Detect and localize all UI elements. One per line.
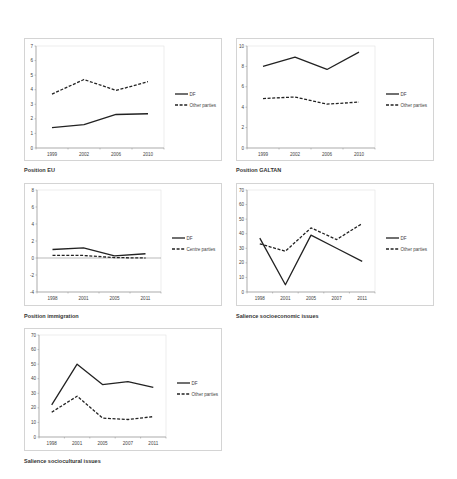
y-tick-label: 40 [239,231,245,236]
x-tick-label: 2011 [357,296,367,301]
series-line-other-parties [52,80,148,95]
x-tick-label: 1999 [47,152,58,157]
y-tick-label: 4 [30,87,33,92]
x-tick-label: 1998 [255,296,266,301]
series-line-centre-parties [53,255,146,258]
y-tick-label: 2 [241,125,244,130]
x-tick-label: 2007 [123,441,134,446]
x-tick-label: 2001 [78,296,89,301]
x-tick-label: 2010 [354,152,365,157]
chart-position-immigration: -4-2024681998200120052011DFCentre partie… [24,183,222,306]
chart-svg: 02468101999200220062010DFOther parties [237,39,435,162]
chart-svg: -4-2024681998200120052011DFCentre partie… [25,184,223,307]
series-line-other-parties [260,224,362,252]
x-tick-label: 2001 [72,441,83,446]
x-tick-label: 2011 [141,296,151,301]
caption-salience-sociocultural: Salience sociocultural issues [24,458,101,464]
y-tick-label: -4 [30,290,35,295]
y-tick-label: 20 [239,260,245,265]
x-tick-label: 2006 [322,152,333,157]
chart-salience-socioeconomic: 01020304050607019982001200520072011DFOth… [236,183,434,306]
legend-label: DF [187,236,193,241]
x-tick-label: 2005 [97,441,108,446]
y-tick-label: 0 [33,435,36,440]
legend-label: Other parties [190,103,217,108]
legend-label: DF [401,92,407,97]
legend-label: Other parties [401,103,428,108]
y-tick-label: 0 [30,146,33,151]
caption-position-eu: Position EU [24,167,55,173]
y-tick-label: 70 [31,333,37,338]
x-tick-label: 2010 [143,152,154,157]
y-tick-label: 40 [31,376,37,381]
y-tick-label: 8 [31,188,34,193]
series-line-df [260,235,362,285]
legend-label: DF [190,92,196,97]
chart-position-galtan: 02468101999200220062010DFOther parties [236,38,434,161]
series-line-df [263,52,359,69]
y-tick-label: 0 [31,256,34,261]
y-tick-label: 8 [241,64,244,69]
y-tick-label: 6 [241,84,244,89]
x-tick-label: 1999 [258,152,269,157]
legend-label: Other parties [401,247,428,252]
y-tick-label: 4 [241,105,244,110]
chart-svg: 01020304050607019982001200520072011DFOth… [25,329,223,452]
legend-label: Other parties [192,392,219,397]
y-tick-label: 0 [241,290,244,295]
y-tick-label: 2 [31,239,34,244]
legend-label: Centre parties [187,247,217,252]
x-tick-label: 2005 [306,296,317,301]
caption-position-galtan: Position GALTAN [236,167,281,173]
x-tick-label: 2001 [280,296,291,301]
legend-label: DF [401,236,407,241]
x-tick-label: 2002 [79,152,90,157]
y-tick-label: 50 [239,217,245,222]
y-tick-label: 0 [241,146,244,151]
y-tick-label: -2 [30,273,35,278]
caption-position-immigration: Position immigration [24,313,79,319]
y-tick-label: 10 [31,420,37,425]
chart-svg: 01020304050607019982001200520072011DFOth… [237,184,435,307]
y-tick-label: 1 [30,131,33,136]
y-tick-label: 3 [30,102,33,107]
chart-position-eu: 012345671999200220062010DFOther parties [24,38,222,161]
y-tick-label: 50 [31,362,37,367]
caption-salience-socioeconomic: Salience socioeconomic issues [236,313,319,319]
y-tick-label: 6 [31,205,34,210]
y-tick-label: 60 [239,202,245,207]
series-line-df [52,364,154,405]
y-tick-label: 7 [30,44,33,49]
series-line-df [52,114,148,128]
series-line-other-parties [263,97,359,104]
y-tick-label: 30 [31,391,37,396]
y-tick-label: 2 [30,116,33,121]
chart-svg: 012345671999200220062010DFOther parties [25,39,223,162]
y-tick-label: 6 [30,58,33,63]
y-tick-label: 4 [31,222,34,227]
chart-salience-sociocultural: 01020304050607019982001200520072011DFOth… [24,328,222,451]
x-tick-label: 2007 [331,296,342,301]
x-tick-label: 2002 [290,152,301,157]
legend-label: DF [192,381,198,386]
y-tick-label: 30 [239,246,245,251]
x-tick-label: 2005 [109,296,120,301]
y-tick-label: 60 [31,347,37,352]
y-tick-label: 20 [31,405,37,410]
y-tick-label: 5 [30,73,33,78]
x-tick-label: 2006 [111,152,122,157]
y-tick-label: 10 [239,44,245,49]
x-tick-label: 2011 [148,441,158,446]
series-line-df [53,248,146,256]
series-line-other-parties [52,396,154,419]
y-tick-label: 10 [239,275,245,280]
x-tick-label: 1998 [47,441,58,446]
x-tick-label: 1998 [47,296,58,301]
y-tick-label: 70 [239,188,245,193]
